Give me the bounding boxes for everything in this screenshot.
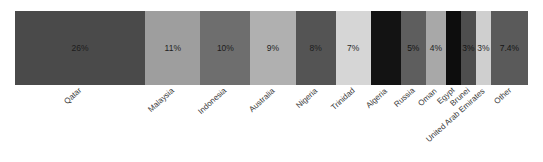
bar-segment-indonesia[interactable]: 10% (200, 11, 250, 85)
segment-value-label: 3% (462, 44, 474, 53)
segment-value-label: 3% (477, 44, 489, 53)
segment-value-label: 5% (407, 44, 419, 53)
bar-segment-oman[interactable]: 4% (426, 11, 446, 85)
segment-value-label: 8% (309, 44, 321, 53)
segment-value-label: 7.4% (500, 44, 519, 53)
bar-segment-algeria[interactable] (371, 11, 401, 85)
segment-value-label: 10% (217, 44, 234, 53)
axis-label-trinidad: Trinidad (330, 87, 357, 112)
axis-label-qatar: Qatar (63, 87, 83, 106)
segment-value-label: 11% (165, 44, 181, 53)
bar-segment-trinidad[interactable]: 7% (336, 11, 371, 85)
axis-label-australia: Australia (248, 87, 276, 114)
axis-label-nigeria: Nigeria (295, 87, 319, 110)
axis-label-russia: Russia (393, 87, 417, 109)
stacked-bar-chart: 26%11%10%9%8%7%5%4%3%3%7.4% QatarMalaysi… (0, 0, 543, 162)
bar-segment-other[interactable]: 7.4% (491, 11, 528, 85)
category-axis: QatarMalaysiaIndonesiaAustraliaNigeriaTr… (0, 85, 543, 162)
segment-value-label: 9% (267, 44, 279, 53)
bar-segment-australia[interactable]: 9% (250, 11, 295, 85)
segment-value-label: 26% (72, 44, 89, 53)
bar-segment-nigeria[interactable]: 8% (296, 11, 336, 85)
segment-value-label: 4% (430, 44, 442, 53)
bar-segment-brunei[interactable]: 3% (461, 11, 476, 85)
axis-label-other: Other (493, 87, 513, 106)
bar-segment-malaysia[interactable]: 11% (145, 11, 200, 85)
segment-value-label: 7% (347, 44, 359, 53)
axis-label-malaysia: Malaysia (147, 87, 176, 114)
axis-label-algeria: Algeria (365, 87, 389, 110)
bar-segment-qatar[interactable]: 26% (15, 11, 145, 85)
bar-segment-russia[interactable]: 5% (401, 11, 426, 85)
axis-label-indonesia: Indonesia (197, 87, 228, 116)
bar-segment-egypt[interactable] (446, 11, 461, 85)
bar-segment-united-arab-emirates[interactable]: 3% (476, 11, 491, 85)
stacked-bar-track: 26%11%10%9%8%7%5%4%3%3%7.4% (15, 11, 528, 85)
